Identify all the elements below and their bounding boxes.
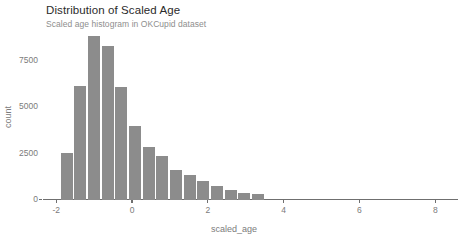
x-tick-mark [359,200,360,203]
histogram-bar [143,147,155,200]
histogram-bar [61,153,73,200]
x-axis-label: scaled_age [0,224,468,234]
histogram-bar [115,87,127,200]
x-tick-mark [56,200,57,203]
y-tick-label: 0 [33,194,38,204]
histogram-bar [238,193,250,200]
x-tick-mark [131,200,132,203]
x-tick-label: 8 [433,205,438,215]
x-tick-label: 2 [205,205,210,215]
x-tick-mark [283,200,284,203]
y-tick-label: 2500 [19,148,38,158]
histogram-bar [252,194,264,200]
x-tick-mark [207,200,208,203]
histogram-bar [211,186,223,201]
y-tick-label: 5000 [19,101,38,111]
x-tick-label: 6 [357,205,362,215]
histogram-bar [156,156,168,200]
plot-area [43,28,458,200]
y-tick-label: 7500 [19,55,38,65]
histogram-bar [225,190,237,200]
x-tick-label: -2 [52,205,60,215]
y-axis-label: count [3,106,13,128]
x-tick-label: 4 [281,205,286,215]
histogram-bar [129,126,141,200]
histogram-bar [197,181,209,200]
chart-title: Distribution of Scaled Age [46,4,180,16]
y-tick-mark [39,199,42,200]
histogram-chart: Distribution of Scaled Age Scaled age hi… [0,0,468,247]
x-tick-label: 0 [130,205,135,215]
histogram-bar [74,86,86,200]
x-tick-mark [435,200,436,203]
histogram-bar [170,170,182,200]
histogram-bar [184,175,196,200]
histogram-bar [88,36,100,200]
histogram-bar [102,46,114,200]
